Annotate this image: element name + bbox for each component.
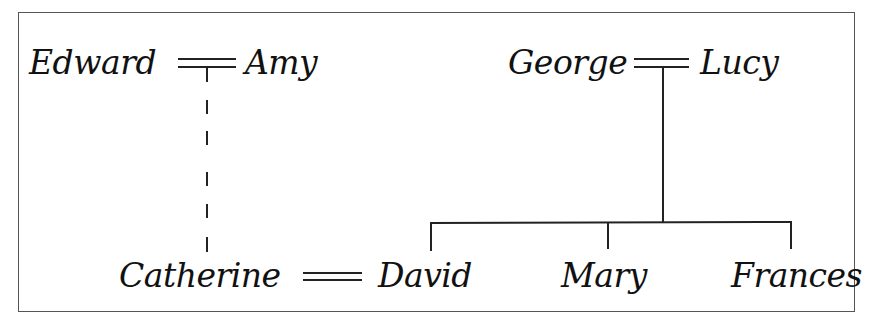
marriage-catherine-david xyxy=(303,273,362,280)
marriage-george-lucy xyxy=(634,59,689,67)
connector-lines xyxy=(0,0,874,327)
marriage-edward-amy xyxy=(178,59,236,67)
descent-line-george-lucy xyxy=(430,67,792,251)
